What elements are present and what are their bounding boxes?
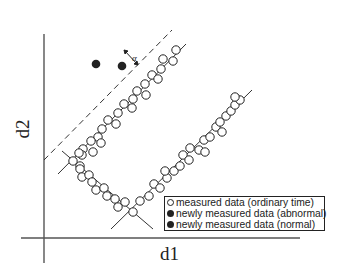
x-axis-label: d1 bbox=[160, 243, 179, 265]
diagram-canvas bbox=[0, 0, 346, 278]
legend-item-new-normal: newly measured data (normal) bbox=[167, 219, 324, 230]
threshold-dashed-line bbox=[44, 30, 172, 160]
alpha-label: α bbox=[132, 53, 137, 63]
legend-label: measured data (ordinary time) bbox=[176, 197, 314, 208]
open-circle-icon bbox=[167, 199, 174, 206]
legend-label: newly measured data (normal) bbox=[176, 219, 315, 230]
legend-item-new-abnormal: newly measured data (abnormal) bbox=[167, 208, 324, 219]
measured-data-points bbox=[69, 46, 244, 216]
filled-circle-icon bbox=[167, 210, 174, 217]
legend-item-measured-ordinary: measured data (ordinary time) bbox=[167, 197, 324, 208]
y-axis-label: d2 bbox=[12, 114, 34, 144]
normal-data-point bbox=[118, 62, 127, 71]
legend-label: newly measured data (abnormal) bbox=[176, 208, 327, 219]
filled-circle-icon bbox=[167, 221, 174, 228]
legend: measured data (ordinary time) newly meas… bbox=[164, 196, 325, 231]
abnormal-data-point bbox=[92, 60, 101, 69]
